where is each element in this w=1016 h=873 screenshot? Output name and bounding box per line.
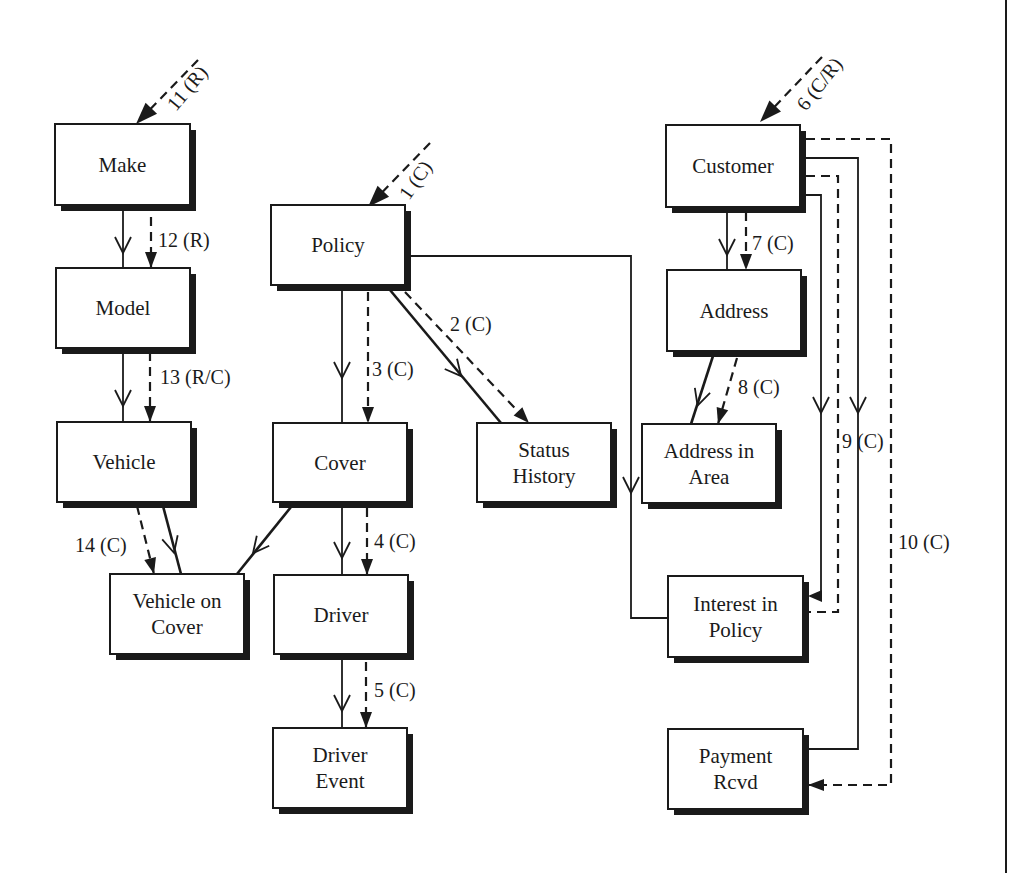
entity-label: Address (700, 299, 769, 323)
relationship-line (163, 506, 181, 574)
event-line (806, 176, 838, 612)
event-arrow: 14 (C) (75, 506, 156, 574)
entity-label: Policy (311, 233, 365, 257)
relationship-cover-to-driver (334, 507, 350, 575)
event-arrow: 5 (C) (360, 662, 416, 728)
relationship-line (390, 290, 501, 423)
entity-make[interactable]: Make (55, 124, 196, 211)
entity-status-history[interactable]: StatusHistory (477, 423, 617, 508)
entity-label: Status (518, 438, 569, 462)
entity-cover[interactable]: Cover (273, 423, 413, 508)
arrowhead-icon (144, 557, 156, 574)
event-arrow: 9 (C) (806, 176, 884, 612)
entity-label: Payment (699, 744, 773, 768)
box-frame (477, 423, 611, 502)
event-arrow: 7 (C) (740, 212, 794, 270)
entity-label: Model (96, 296, 151, 320)
entity-label: Policy (709, 618, 763, 642)
box-frame (668, 576, 803, 657)
event-arrow: 13 (R/C) (144, 352, 231, 422)
entity-label: Address in (664, 439, 755, 463)
entity-address-in-area[interactable]: Address inArea (642, 424, 782, 509)
entity-vehicle[interactable]: Vehicle (57, 422, 197, 508)
relationship-policy-to-status-history (390, 290, 501, 423)
event-line (806, 139, 891, 785)
box-frame (110, 574, 244, 654)
event-label: 4 (C) (374, 530, 416, 553)
event-line (405, 292, 529, 423)
event-label: 3 (C) (372, 358, 414, 381)
event-arrow: 12 (R) (145, 217, 210, 268)
arrowhead-icon (144, 406, 156, 422)
entity-interest-in-policy[interactable]: Interest inPolicy (668, 576, 809, 663)
entity-payment-rcvd[interactable]: PaymentRcvd (668, 729, 809, 815)
entity-label: Interest in (693, 592, 778, 616)
event-label: 7 (C) (752, 232, 794, 255)
event-label: 9 (C) (842, 430, 884, 453)
entry-arrow-11: 11 (R) (136, 60, 213, 124)
entity-label: Make (99, 153, 147, 177)
entity-label: Vehicle (93, 450, 156, 474)
arrowhead-icon (360, 712, 372, 728)
event-arrow: 10 (C) (806, 139, 950, 791)
box-frame (642, 424, 776, 503)
arrowhead-icon (362, 407, 374, 423)
arrowhead-icon (808, 590, 822, 602)
entity-label: History (513, 464, 577, 488)
entity-customer[interactable]: Customer (666, 125, 806, 213)
box-frame (273, 728, 407, 808)
entry-label: 6 (C/R) (792, 53, 847, 115)
arrowhead-icon (514, 407, 529, 423)
relationship-customer-to-interest-in-policy (806, 195, 829, 594)
entity-policy[interactable]: Policy (271, 205, 411, 291)
entity-label: Cover (314, 451, 365, 475)
box-frame (668, 729, 803, 809)
entity-model[interactable]: Model (56, 268, 196, 354)
relationship-line (806, 158, 858, 749)
event-label: 13 (R/C) (160, 366, 231, 389)
arrowhead-icon (361, 559, 373, 575)
relationship-cover-to-vehicle-on-cover (237, 507, 291, 574)
entity-label: Area (689, 465, 730, 489)
entity-label: Driver (314, 603, 369, 627)
relationship-driver-to-driver-event (334, 659, 350, 728)
entity-label: Customer (692, 154, 774, 178)
event-arrow: 8 (C) (717, 358, 780, 424)
relationship-make-to-model (115, 205, 131, 268)
entity-label: Event (316, 769, 365, 793)
crows-foot-icon (162, 535, 177, 553)
relationship-address-to-address-in-area (691, 356, 713, 424)
event-arrow: 2 (C) (405, 292, 529, 423)
entry-arrow-1: 1 (C) (368, 143, 437, 207)
relationship-line (237, 507, 291, 574)
entry-label: 1 (C) (394, 157, 437, 204)
event-label: 8 (C) (738, 376, 780, 399)
diagram-canvas: 12 (R)13 (R/C)14 (C)3 (C)4 (C)5 (C)2 (C)… (0, 0, 1016, 873)
relationship-vehicle-to-vehicle-on-cover (162, 506, 181, 574)
entity-driver-event[interactable]: DriverEvent (273, 728, 413, 814)
event-label: 14 (C) (75, 534, 127, 557)
relationship-customer-to-payment-rcvd (806, 158, 866, 749)
arrowhead-icon (808, 779, 824, 791)
relationship-line (806, 195, 821, 594)
event-arrow: 4 (C) (361, 508, 416, 575)
event-label: 5 (C) (374, 679, 416, 702)
entity-label: Vehicle on (132, 589, 222, 613)
relationship-model-to-vehicle (115, 348, 131, 422)
relationship-policy-to-cover (334, 290, 350, 423)
entity-label: Driver (313, 743, 368, 767)
arrowhead-icon (740, 254, 752, 270)
entry-label: 11 (R) (162, 61, 212, 115)
entity-vehicle-on-cover[interactable]: Vehicle onCover (110, 574, 250, 660)
entity-label: Rcvd (713, 770, 758, 794)
entry-arrow-6: 6 (C/R) (760, 53, 847, 122)
arrowhead-icon (717, 407, 729, 424)
entity-address[interactable]: Address (667, 270, 807, 357)
event-label: 2 (C) (450, 313, 492, 336)
event-arrow: 3 (C) (362, 292, 414, 423)
relationship-customer-to-address (719, 212, 735, 270)
entity-driver[interactable]: Driver (274, 575, 414, 660)
arrowhead-icon (145, 252, 157, 268)
entity-boxes: MakeModelVehicleVehicle onCoverPolicyCov… (55, 124, 809, 815)
event-label: 12 (R) (158, 229, 210, 252)
